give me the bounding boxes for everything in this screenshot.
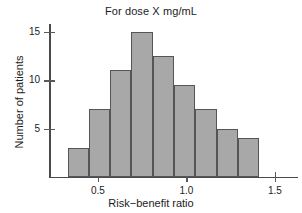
- histogram-bar: [238, 138, 259, 177]
- histogram-bar: [217, 129, 238, 177]
- x-tick-label: 0.5: [78, 185, 118, 196]
- histogram-bar: [131, 32, 152, 177]
- plot-area: [50, 24, 298, 177]
- y-axis-label: Number of patients: [13, 27, 25, 177]
- x-tick-label: 1.0: [166, 185, 206, 196]
- histogram-bar: [153, 56, 174, 177]
- x-tick-label: 1.5: [255, 185, 295, 196]
- histogram-figure: For dose X mg/mL 51015 0.51.01.5 Risk−be…: [0, 0, 302, 213]
- histogram-bar: [89, 109, 110, 177]
- y-tick-label: 5: [34, 124, 40, 134]
- y-tick-label: 10: [29, 75, 40, 85]
- histogram-bar: [68, 148, 89, 177]
- y-tick-label: 15: [29, 27, 40, 37]
- chart-title: For dose X mg/mL: [0, 5, 302, 17]
- histogram-bar: [110, 70, 131, 177]
- histogram-bar: [195, 109, 216, 177]
- x-axis-label: Risk−benefit ratio: [0, 197, 302, 209]
- histogram-bar: [174, 85, 195, 177]
